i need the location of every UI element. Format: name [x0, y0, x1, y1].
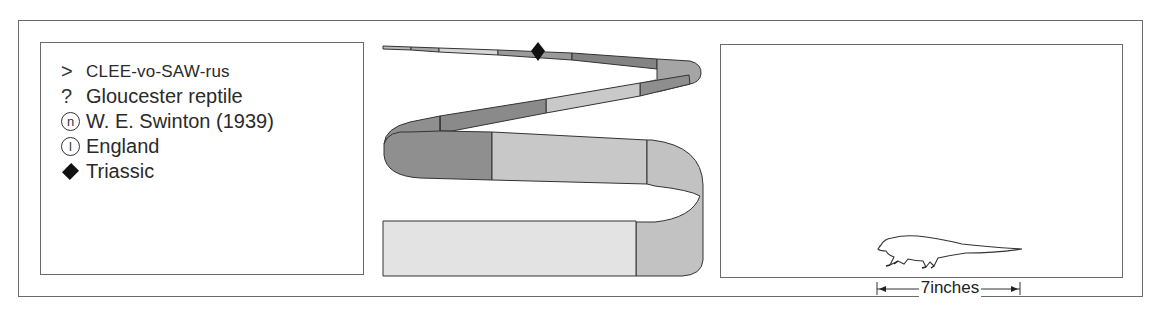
location-text: England [86, 135, 159, 158]
period-diamond-icon [62, 163, 79, 180]
fact-pronunciation: > CLEE-vo-SAW-rus [61, 59, 274, 84]
named-by-icon: n [61, 112, 80, 131]
scale-label: 7inches [919, 278, 982, 297]
scale-bar: 7inches [876, 279, 1024, 297]
fact-meaning: ? Gloucester reptile [61, 84, 274, 109]
meaning-icon: ? [61, 85, 86, 108]
period-text: Triassic [86, 160, 154, 183]
pronunciation-icon: > [61, 60, 86, 83]
fact-named-by: n W. E. Swinton (1939) [61, 109, 274, 134]
named-by-text: W. E. Swinton (1939) [86, 110, 274, 133]
reptile-silhouette-icon [876, 231, 1026, 271]
geologic-timeline-ribbon [376, 36, 716, 282]
timeline-segment [411, 47, 439, 52]
timeline-segment [492, 132, 647, 184]
timeline-segment [546, 83, 640, 113]
fact-location: l England [61, 134, 274, 159]
meaning-text: Gloucester reptile [86, 85, 243, 108]
timeline-segment [439, 48, 498, 55]
location-icon: l [61, 137, 80, 156]
fact-period: Triassic [61, 159, 274, 184]
timeline-segment [383, 46, 411, 50]
timeline-segment [572, 53, 657, 69]
timeline-segment [440, 99, 546, 131]
fact-panel: > CLEE-vo-SAW-rus ? Gloucester reptile n… [40, 42, 364, 275]
fact-list: > CLEE-vo-SAW-rus ? Gloucester reptile n… [61, 59, 274, 184]
pronunciation-text: CLEE-vo-SAW-rus [86, 62, 230, 82]
timeline-segment [383, 221, 636, 276]
